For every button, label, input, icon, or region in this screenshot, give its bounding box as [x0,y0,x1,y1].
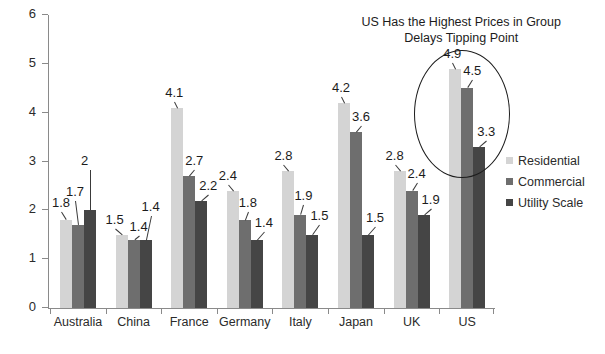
bar-value-label: 1.5 [310,209,328,223]
bar [394,171,406,308]
bar-value-label: 4.2 [332,81,350,95]
bar-value-label: 1.5 [366,211,384,225]
bar [60,220,72,308]
legend-item-commercial: Commercial [506,171,585,192]
bar-value-label: 4.1 [165,86,183,100]
bar-value-label: 2.8 [386,149,404,163]
x-axis-separator [493,308,494,314]
bar-value-label: 4.5 [463,64,481,78]
bar [350,132,362,308]
legend-item-residential: Residential [506,150,585,171]
bar [362,235,374,308]
y-axis-tick-label: 1 [0,250,36,266]
x-axis-separator [439,308,440,314]
bar-value-label: 1.9 [422,193,440,207]
bar [171,108,183,308]
bar-value-label: 2.2 [199,179,217,193]
bar-value-label: 2.4 [219,169,237,183]
bar [338,103,350,308]
y-axis-tick-label: 5 [0,55,36,71]
legend-label: Utility Scale [518,196,583,210]
bar [128,240,140,308]
bar-value-label: 2 [81,154,88,168]
x-axis-separator [217,308,218,314]
x-axis-separator [106,308,107,314]
y-axis-tick-label: 0 [0,299,36,315]
bar-value-label: 1.9 [294,189,312,203]
y-axis-tick-label: 4 [0,104,36,120]
us-highlight-ellipse [414,50,510,178]
x-axis-separator [50,308,51,314]
bar [406,191,418,308]
x-axis-separator [272,308,273,314]
bar-label-leader-line [90,170,91,210]
bar [72,225,84,308]
bar [183,176,195,308]
bar [294,215,306,308]
bar [116,235,128,308]
annotation-line-2: Delays Tipping Point [341,30,581,46]
annotation-line-1: US Has the Highest Prices in Group [341,14,581,30]
y-axis-tick-label: 3 [0,153,36,169]
bar [227,191,239,308]
x-axis-label-us: US [427,315,507,329]
bar-value-label: 1.8 [239,196,257,210]
x-axis-separator [384,308,385,314]
legend-label: Commercial [518,175,585,189]
bar-value-label: 3.6 [352,110,370,124]
legend-swatch [506,157,513,164]
bar [140,240,152,308]
legend-swatch [506,199,513,206]
bar [84,210,96,308]
bar [239,220,251,308]
chart-legend: ResidentialCommercialUtility Scale [506,150,585,213]
legend-label: Residential [518,154,580,168]
us-callout-annotation: US Has the Highest Prices in Group Delay… [341,14,581,46]
y-axis-tick-label: 6 [0,6,36,22]
bar-value-label: 2.8 [274,149,292,163]
bar-value-label: 1.5 [106,213,124,227]
bar-value-label: 2.7 [185,154,203,168]
bar-value-label: 1.4 [255,216,273,230]
bar [306,235,318,308]
legend-swatch [506,178,513,185]
bar-value-label: 1.7 [66,185,84,199]
bar-value-label: 2.4 [408,167,426,181]
bar-value-label: 4.9 [443,47,461,61]
bar-chart: 0123456 AustraliaChinaFranceGermanyItaly… [0,0,605,354]
bar-value-label: 3.3 [477,125,495,139]
bars-layer [48,15,495,308]
x-axis-separator [161,308,162,314]
legend-item-utility-scale: Utility Scale [506,192,585,213]
bar-value-label: 1.4 [130,220,148,234]
bar [418,215,430,308]
bar-value-label: 1.4 [142,200,160,214]
bar [251,240,263,308]
bar [282,171,294,308]
x-axis-separator [328,308,329,314]
bar [195,201,207,308]
y-axis-tick-label: 2 [0,201,36,217]
